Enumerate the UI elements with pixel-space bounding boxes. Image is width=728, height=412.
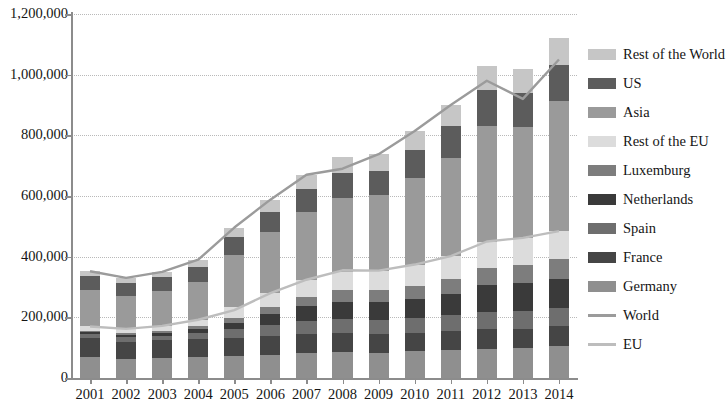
line-series-group <box>72 14 577 378</box>
x-axis-tick <box>523 378 525 384</box>
x-axis-tick-label: 2005 <box>216 386 252 403</box>
legend-item-label: France <box>623 250 662 265</box>
stacked-bar-chart: 0200,000400,000600,000800,0001,000,0001,… <box>0 0 728 412</box>
x-axis-tick-label: 2011 <box>433 386 469 403</box>
x-axis-tick-label: 2001 <box>72 386 108 403</box>
x-axis-tick <box>415 378 417 384</box>
chart-legend: Rest of the WorldUSAsiaRest of the EULux… <box>588 40 728 359</box>
x-axis-tick <box>234 378 236 384</box>
line-series-eu <box>90 231 559 329</box>
y-axis-tick-label: 1,200,000 <box>10 6 68 20</box>
x-axis-tick-label: 2009 <box>361 386 397 403</box>
legend-swatch-icon <box>588 107 616 118</box>
legend-swatch-icon <box>588 314 616 317</box>
legend-item-label: Luxemburg <box>623 163 690 178</box>
y-axis-tick-label: 600,000 <box>21 188 68 202</box>
x-axis-tick-label: 2008 <box>325 386 361 403</box>
legend-swatch-icon <box>588 223 616 234</box>
legend-item-label: US <box>623 76 642 91</box>
y-axis-labels: 0200,000400,000600,000800,0001,000,0001,… <box>0 0 68 412</box>
line-series-world <box>90 60 559 278</box>
x-axis-tick-label: 2013 <box>505 386 541 403</box>
x-axis-line <box>71 378 578 380</box>
legend-item-label: Netherlands <box>623 192 693 207</box>
y-axis-tick <box>65 196 73 198</box>
y-axis-tick-label: 0 <box>61 370 68 384</box>
legend-item-us[interactable]: US <box>588 69 728 98</box>
y-axis-tick <box>65 14 73 16</box>
x-axis-tick <box>487 378 489 384</box>
x-axis-tick <box>270 378 272 384</box>
legend-item-eu[interactable]: EU <box>588 330 728 359</box>
legend-item-germany[interactable]: Germany <box>588 272 728 301</box>
x-axis-tick <box>343 378 345 384</box>
legend-swatch-icon <box>588 252 616 263</box>
legend-swatch-icon <box>588 281 616 292</box>
y-axis-tick-label: 1,000,000 <box>10 67 68 81</box>
y-axis-tick <box>65 75 73 77</box>
y-axis-tick <box>65 317 73 319</box>
x-axis-tick <box>379 378 381 384</box>
x-axis-tick <box>126 378 128 384</box>
legend-item-label: EU <box>623 337 642 352</box>
y-axis-tick <box>65 378 73 380</box>
legend-swatch-icon <box>588 49 616 60</box>
legend-item-world[interactable]: World <box>588 301 728 330</box>
legend-item-label: World <box>623 308 659 323</box>
y-axis-tick <box>65 135 73 137</box>
y-axis-tick <box>65 257 73 259</box>
legend-item-label: Rest of the World <box>623 47 725 62</box>
x-axis-tick <box>198 378 200 384</box>
legend-item-label: Germany <box>623 279 677 294</box>
legend-item-spain[interactable]: Spain <box>588 214 728 243</box>
x-axis-tick-label: 2014 <box>541 386 577 403</box>
x-axis-tick-label: 2002 <box>108 386 144 403</box>
x-axis-tick-label: 2003 <box>144 386 180 403</box>
x-axis-tick <box>162 378 164 384</box>
legend-item-france[interactable]: France <box>588 243 728 272</box>
legend-item-rest-of-the-eu[interactable]: Rest of the EU <box>588 127 728 156</box>
x-axis-tick-label: 2012 <box>469 386 505 403</box>
y-axis-tick-label: 200,000 <box>21 309 68 323</box>
legend-item-netherlands[interactable]: Netherlands <box>588 185 728 214</box>
legend-item-luxemburg[interactable]: Luxemburg <box>588 156 728 185</box>
x-axis-tick-label: 2007 <box>288 386 324 403</box>
legend-swatch-icon <box>588 343 616 346</box>
x-axis-tick-label: 2004 <box>180 386 216 403</box>
legend-item-label: Rest of the EU <box>623 134 709 149</box>
legend-swatch-icon <box>588 194 616 205</box>
legend-item-asia[interactable]: Asia <box>588 98 728 127</box>
legend-item-label: Spain <box>623 221 656 236</box>
x-axis-tick-label: 2006 <box>252 386 288 403</box>
x-axis-tick <box>451 378 453 384</box>
x-axis-tick <box>306 378 308 384</box>
plot-area <box>72 14 577 378</box>
y-axis-tick-label: 400,000 <box>21 249 68 263</box>
legend-item-rest-of-the-world[interactable]: Rest of the World <box>588 40 728 69</box>
legend-swatch-icon <box>588 136 616 147</box>
x-axis-tick-label: 2010 <box>397 386 433 403</box>
legend-swatch-icon <box>588 165 616 176</box>
y-axis-tick-label: 800,000 <box>21 127 68 141</box>
x-axis-tick <box>90 378 92 384</box>
legend-item-label: Asia <box>623 105 650 120</box>
x-axis-tick <box>559 378 561 384</box>
legend-swatch-icon <box>588 78 616 89</box>
